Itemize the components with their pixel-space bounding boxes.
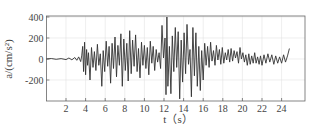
x-tick-label: 8 bbox=[122, 103, 127, 114]
x-tick-label: 16 bbox=[198, 103, 208, 114]
y-tick-label: 200 bbox=[28, 33, 43, 44]
x-axis-label: t（s） bbox=[163, 113, 192, 125]
x-tick-label: 22 bbox=[257, 103, 267, 114]
x-tick-label: 2 bbox=[64, 103, 69, 114]
x-tick-label: 18 bbox=[218, 103, 228, 114]
y-tick-label: 0 bbox=[38, 54, 43, 65]
x-tick-label: 6 bbox=[103, 103, 108, 114]
acceleration-trace bbox=[46, 17, 289, 99]
x-tick-label: 24 bbox=[277, 103, 287, 114]
x-tick-label: 4 bbox=[83, 103, 88, 114]
chart: 4002000-200 24681012141618202224 a/(cm/s… bbox=[0, 0, 315, 129]
x-tick-label: 10 bbox=[139, 103, 149, 114]
y-tick-label: 400 bbox=[28, 12, 43, 23]
y-axis: 4002000-200 bbox=[25, 12, 49, 86]
x-axis: 24681012141618202224 bbox=[64, 98, 287, 114]
y-tick-label: -200 bbox=[25, 75, 43, 86]
y-axis-label: a/(cm/s²) bbox=[2, 39, 15, 79]
x-tick-label: 20 bbox=[237, 103, 247, 114]
